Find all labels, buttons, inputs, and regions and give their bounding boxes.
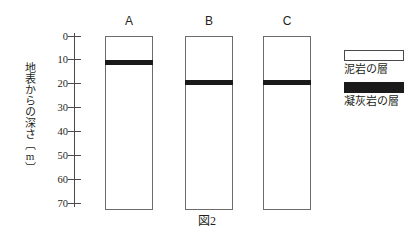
legend-item-mudstone: 泥岩の層 [344, 50, 410, 76]
tuff-band-a [105, 60, 153, 65]
axis-tick-0 [68, 36, 81, 37]
column-label-a: A [105, 14, 153, 28]
column-label-b: B [185, 14, 233, 28]
depth-tick-labels: 0 10 20 30 40 50 60 70 [44, 29, 68, 207]
axis-tick-40 [68, 131, 81, 132]
depth-tick-label-0: 0 [44, 31, 68, 42]
legend: 泥岩の層 凝灰岩の層 [344, 50, 410, 114]
tuff-band-c [263, 80, 311, 85]
depth-tick-label-40: 40 [44, 126, 68, 137]
axis-tick-70 [68, 203, 81, 204]
column-b [185, 36, 233, 210]
tuff-band-b [185, 80, 233, 85]
legend-label-tuff: 凝灰岩の層 [344, 94, 410, 108]
depth-tick-label-20: 20 [44, 78, 68, 89]
column-a [105, 36, 153, 210]
depth-axis-title: 地表からの深さ〔m〕 [12, 62, 36, 173]
axis-tick-10 [68, 59, 81, 60]
axis-tick-30 [68, 107, 81, 108]
column-label-c: C [263, 14, 311, 28]
legend-item-tuff: 凝灰岩の層 [344, 82, 410, 108]
mudstone-swatch-icon [344, 50, 404, 61]
depth-tick-label-50: 50 [44, 150, 68, 161]
depth-tick-label-70: 70 [44, 198, 68, 209]
tuff-swatch-icon [344, 82, 404, 93]
axis-tick-60 [68, 179, 81, 180]
depth-tick-label-10: 10 [44, 54, 68, 65]
geologic-column-figure: 地表からの深さ〔m〕 0 10 20 30 40 50 60 70 A B C … [0, 0, 414, 242]
depth-tick-label-30: 30 [44, 102, 68, 113]
axis-tick-50 [68, 155, 81, 156]
legend-label-mudstone: 泥岩の層 [344, 62, 410, 76]
axis-tick-20 [68, 83, 81, 84]
figure-caption: 図2 [0, 214, 414, 228]
depth-tick-label-60: 60 [44, 174, 68, 185]
column-c [263, 36, 311, 210]
